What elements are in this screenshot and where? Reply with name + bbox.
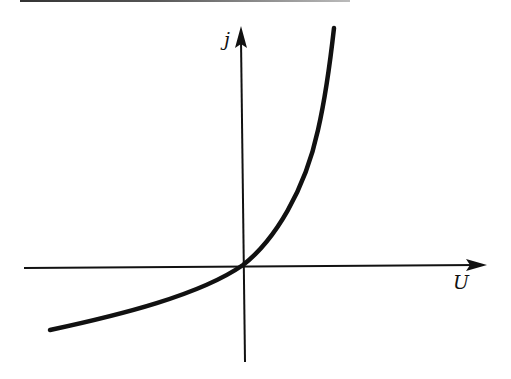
x-axis-label: U: [453, 273, 469, 292]
iv-curve-diagram: [0, 0, 511, 379]
y-axis: [241, 40, 245, 362]
j-u-curve: [50, 28, 334, 330]
y-axis-label: j: [224, 30, 230, 49]
x-axis: [24, 265, 478, 268]
